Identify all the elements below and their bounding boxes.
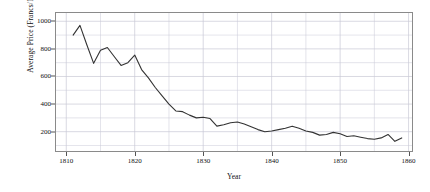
x-tick-mark	[272, 152, 273, 156]
y-tick-label: 200	[21, 128, 51, 136]
x-axis-title: Year	[55, 172, 413, 181]
x-axis-ticks: 181018201830184018501860	[55, 152, 413, 172]
x-tick-label: 1860	[389, 157, 429, 165]
x-tick-label: 1820	[115, 157, 155, 165]
plot-area	[55, 12, 413, 152]
y-tick-label: 1000	[21, 17, 51, 25]
y-tick-label: 600	[21, 72, 51, 80]
chart-figure: Average Price (Francs/100kg) 20040060080…	[0, 0, 430, 192]
x-tick-mark	[409, 152, 410, 156]
x-tick-mark	[203, 152, 204, 156]
x-tick-mark	[66, 152, 67, 156]
x-tick-mark	[340, 152, 341, 156]
minor-gridlines-vertical	[101, 13, 375, 151]
x-tick-label: 1850	[320, 157, 360, 165]
y-tick-label: 400	[21, 100, 51, 108]
line-chart-svg	[56, 13, 412, 151]
y-axis-ticks: 2004006008001000	[18, 12, 51, 152]
minor-gridlines-horizontal	[56, 35, 412, 145]
x-tick-label: 1810	[46, 157, 86, 165]
major-gridlines-horizontal	[56, 21, 412, 131]
x-tick-label: 1840	[252, 157, 292, 165]
y-tick-label: 800	[21, 45, 51, 53]
x-tick-mark	[135, 152, 136, 156]
x-tick-label: 1830	[183, 157, 223, 165]
